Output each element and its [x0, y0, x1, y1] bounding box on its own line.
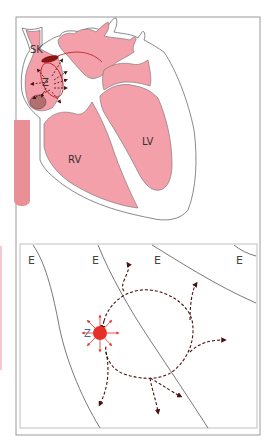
label-ectopic-focus-detail: Z: [84, 328, 91, 339]
heart-diagram: SK Z RV LV: [14, 18, 196, 220]
label-e-4: E: [236, 254, 243, 267]
detail-panel-frame: [20, 244, 257, 428]
label-sa-node: SK: [30, 44, 43, 55]
label-left-ventricle: LV: [142, 136, 153, 147]
av-node: [30, 95, 46, 109]
label-e-3: E: [154, 254, 161, 267]
label-e-1: E: [28, 254, 35, 267]
label-ectopic-focus-top: Z: [42, 77, 49, 88]
figure-canvas: SK Z RV LV E E E E: [0, 0, 275, 441]
inferior-vena-cava: [14, 120, 30, 206]
label-right-ventricle: RV: [68, 154, 81, 165]
label-e-2: E: [92, 254, 99, 267]
reentry-detail-panel: E E E E: [20, 244, 257, 428]
focus-dot: [93, 326, 107, 340]
